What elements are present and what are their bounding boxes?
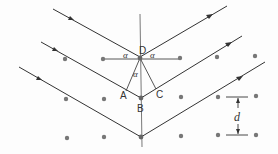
label-D: D (139, 45, 146, 56)
normal-line (140, 14, 142, 147)
label-C: C (156, 89, 163, 100)
label-alpha-right: α (150, 50, 155, 60)
arrow-icon (36, 76, 42, 80)
label-A: A (120, 90, 127, 101)
label-alpha-left: α (123, 50, 128, 60)
label-B: B (137, 103, 144, 114)
bragg-diffraction-diagram: D A B C α α α d (0, 0, 278, 154)
label-d: d (234, 110, 241, 124)
label-alpha-lower: α (133, 69, 138, 79)
diagram-canvas: D A B C α α α d (0, 0, 278, 154)
line-DC (140, 58, 156, 89)
